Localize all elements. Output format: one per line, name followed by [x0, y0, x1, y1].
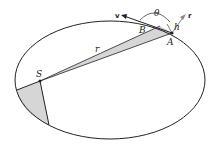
v-arrowhead-icon [121, 14, 127, 19]
label-B: B [138, 25, 146, 35]
label-S: S [36, 69, 42, 79]
label-h: h [174, 22, 180, 32]
label-A: A [166, 37, 174, 47]
label-v-vector: v [115, 12, 120, 20]
label-r: r [95, 44, 100, 54]
label-theta: θ [154, 8, 160, 18]
focus-point-S [39, 80, 42, 83]
kepler-diagram: S A B r h θ v r [0, 0, 217, 146]
radius-to-A [40, 33, 172, 81]
r-arrowhead-icon [180, 14, 186, 20]
label-r-vector: r [188, 12, 192, 20]
v-vector-arrow [124, 16, 172, 33]
sector-near-aphelion [40, 26, 172, 81]
diagram-canvas: S A B r h θ v r [0, 0, 217, 146]
